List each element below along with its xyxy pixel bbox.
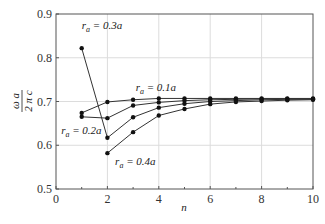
data-point: [80, 115, 84, 119]
y-tick-label: 0.7: [37, 95, 52, 109]
data-point: [182, 107, 186, 111]
data-point: [285, 98, 289, 102]
series-annotation: ra = 0.4a: [115, 155, 156, 170]
data-point: [131, 115, 135, 119]
data-point: [311, 98, 315, 102]
x-tick-label: 4: [156, 192, 162, 206]
data-point: [80, 46, 84, 50]
x-tick-label: 0: [53, 192, 59, 206]
y-tick-label: 0.5: [37, 182, 52, 196]
data-point: [105, 136, 109, 140]
data-point: [182, 101, 186, 105]
axis-ticks: 02468100.50.60.70.80.9: [37, 7, 319, 206]
data-point: [157, 105, 161, 109]
series-annotation: ra = 0.3a: [82, 19, 123, 34]
data-series: [80, 46, 316, 155]
y-tick-label: 0.8: [37, 51, 52, 65]
svg-text:ω a: ω a: [9, 92, 21, 109]
series-annotations: ra = 0.3ara = 0.1ara = 0.2ara = 0.4a: [61, 19, 176, 170]
data-point: [234, 100, 238, 104]
data-point: [131, 103, 135, 107]
data-point: [259, 99, 263, 103]
data-point: [157, 113, 161, 117]
y-axis-label: ω a 2 π c: [9, 90, 34, 112]
x-tick-label: 8: [259, 192, 265, 206]
data-point: [105, 116, 109, 120]
data-point: [105, 100, 109, 104]
data-point: [80, 111, 84, 115]
y-tick-label: 0.6: [37, 138, 52, 152]
chart: 02468100.50.60.70.80.9 ra = 0.3ara = 0.1…: [0, 0, 325, 224]
data-point: [157, 96, 161, 100]
data-point: [105, 151, 109, 155]
series-annotation: ra = 0.1a: [136, 81, 177, 96]
svg-text:2 π c: 2 π c: [22, 90, 34, 112]
data-point: [131, 98, 135, 102]
data-point: [131, 130, 135, 134]
x-tick-label: 10: [307, 192, 319, 206]
series-line: [80, 46, 316, 140]
data-point: [208, 102, 212, 106]
x-tick-label: 6: [207, 192, 213, 206]
x-tick-label: 2: [104, 192, 110, 206]
y-tick-label: 0.9: [37, 7, 52, 21]
x-axis-label: n: [181, 201, 187, 213]
series-annotation: ra = 0.2a: [61, 124, 102, 139]
data-point: [157, 100, 161, 104]
